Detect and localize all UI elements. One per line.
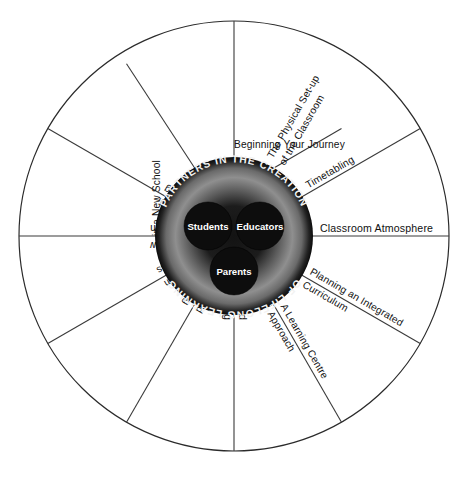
node-students-label: Students — [187, 221, 228, 232]
wheel-svg: Beginning Your Journey in a New School T… — [0, 0, 467, 485]
segment-line: Classroom Atmosphere — [320, 222, 433, 234]
wheel-diagram: Beginning Your Journey in a New School T… — [0, 0, 467, 485]
svg-text:Classroom Atmosphere: Classroom Atmosphere — [320, 222, 433, 234]
node-parents-label: Parents — [216, 266, 251, 277]
node-educators-label: Educators — [237, 221, 284, 232]
segment-classroom-atmosphere[interactable]: Classroom Atmosphere — [320, 222, 433, 234]
